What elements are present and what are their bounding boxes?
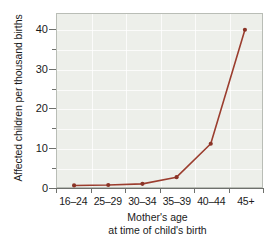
y-axis-tick-labels: 010203040 [22,14,48,186]
y-axis-major-tick [49,148,56,149]
y-axis-minor-tick [52,49,56,50]
data-point-marker: 45+: 40 [243,28,247,32]
y-axis-tick-label: 20 [22,102,48,114]
y-axis-minor-tick [52,168,56,169]
y-axis-major-tick [49,108,56,109]
series-polyline [74,30,245,186]
x-axis-tick [229,188,230,193]
data-point-marker: 40–44: 11 [209,142,213,146]
data-point-marker: 25–29: 0.5 [106,183,110,187]
y-axis-major-tick [49,188,56,189]
x-axis-tick-labels: 16–2425–2930–3435–3940–4445+ [56,195,263,209]
x-axis-tick-label: 45+ [237,195,254,207]
data-series-line: 16–24: 0.425–29: 0.530–34: 0.835–39: 2.5… [57,14,262,187]
data-point-marker: 16–24: 0.4 [72,183,76,187]
x-axis-tick [194,188,195,193]
y-axis-tick-label: 30 [22,63,48,75]
data-point-marker: 35–39: 2.5 [175,175,179,179]
data-point-marker: 30–34: 0.8 [140,182,144,186]
y-axis-minor-tick [52,89,56,90]
x-axis-tick-label: 35–39 [163,195,191,207]
x-axis-tick-label: 25–29 [94,195,122,207]
x-axis-tick [56,188,57,193]
x-axis-tick [160,188,161,193]
x-axis-tick-label: 40–44 [197,195,225,207]
y-axis-major-tick [49,29,56,30]
y-axis-tick-label: 10 [22,142,48,154]
plot-area: 16–24: 0.425–29: 0.530–34: 0.835–39: 2.5… [56,13,263,188]
y-axis-major-tick [49,69,56,70]
x-axis-title: Mother's age at time of child's birth [40,211,275,237]
y-axis-tick-label: 0 [22,182,48,194]
x-axis-title-line-1: Mother's age [40,211,275,224]
y-axis-minor-tick [52,128,56,129]
y-axis-tick-label: 40 [22,23,48,35]
x-axis-tick [91,188,92,193]
x-axis-tick-label: 30–34 [128,195,156,207]
x-axis-tick-label: 16–24 [59,195,87,207]
line-chart-figure: Affected children per thousand births 01… [0,0,275,243]
x-axis-tick [125,188,126,193]
x-axis-title-line-2: at time of child's birth [40,224,275,237]
x-axis-tick [263,188,264,193]
